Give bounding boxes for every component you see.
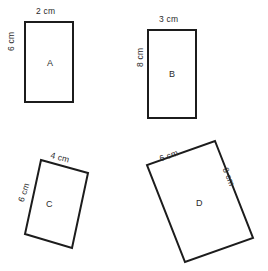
- shape-label-b: B: [169, 69, 175, 79]
- dim-label-a-height: 6 cm: [6, 32, 16, 51]
- dim-label-a-width: 2 cm: [36, 6, 55, 16]
- diagram-canvas: A B C D 2 cm 6 cm 3 cm 8 cm 4 cm 6 cm 6 …: [0, 0, 268, 271]
- shape-label-a: A: [47, 58, 53, 68]
- shape-label-d: D: [196, 198, 203, 208]
- dim-label-b-height: 8 cm: [135, 48, 145, 67]
- dim-label-b-width: 3 cm: [159, 14, 178, 24]
- rectangle-c-outline: [25, 160, 88, 248]
- shape-label-c: C: [46, 199, 53, 209]
- shape-outlines: [0, 0, 268, 271]
